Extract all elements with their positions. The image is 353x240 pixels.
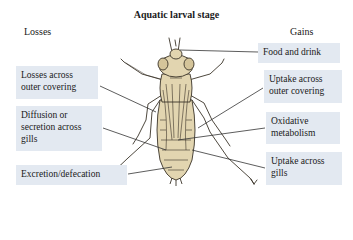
box-uptake-across-outer-covering: Uptake across outer covering [264, 70, 342, 103]
leader-uptake-covering [198, 88, 263, 128]
leader-food [180, 50, 258, 52]
leader-uptake-gills [192, 150, 265, 168]
box-excretion-defecation: Excretion/defecation [16, 165, 127, 185]
box-uptake-across-gills: Uptake across gills [266, 152, 342, 185]
box-oxidative-metabolism: Oxidative metabolism [266, 112, 340, 144]
box-diffusion-secretion-gills: Diffusion or secretion across gills [16, 106, 102, 151]
box-losses-across-outer-covering: Losses across outer covering [16, 66, 98, 99]
leader-diffusion-gills [103, 128, 166, 150]
box-food-and-drink: Food and drink [258, 43, 340, 63]
leader-losses-covering [100, 86, 156, 112]
